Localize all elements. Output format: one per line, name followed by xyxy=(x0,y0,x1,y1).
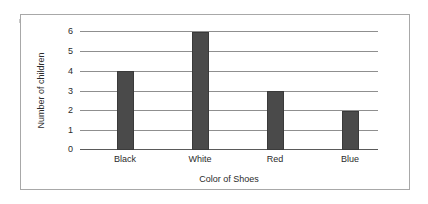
x-tick-label-black: Black xyxy=(114,155,136,164)
y-tick-label-5: 5 xyxy=(68,46,73,55)
y-axis-title-text: Number of children xyxy=(37,52,46,128)
y-tick-label-4: 4 xyxy=(68,66,73,75)
y-tick-label-1: 1 xyxy=(68,126,73,135)
x-tick-label-blue: Blue xyxy=(341,155,359,164)
x-tick-label-red: Red xyxy=(267,155,284,164)
y-tick-label-3: 3 xyxy=(68,86,73,95)
bar-white[interactable] xyxy=(192,32,209,150)
x-tick-label-white: White xyxy=(188,155,211,164)
y-tick-label-2: 2 xyxy=(68,106,73,115)
x-axis-title: Color of Shoes xyxy=(80,175,378,184)
y-tick-label-0: 0 xyxy=(68,145,73,154)
bar-red[interactable] xyxy=(267,91,284,150)
bar-blue[interactable] xyxy=(342,111,359,150)
bars-layer xyxy=(80,31,378,150)
y-axis-title: Number of children xyxy=(34,31,48,150)
plot-area: 6 5 4 3 2 1 0 Black White Red Blue xyxy=(80,31,378,150)
y-tick-label-6: 6 xyxy=(68,27,73,36)
bar-black[interactable] xyxy=(117,71,134,150)
